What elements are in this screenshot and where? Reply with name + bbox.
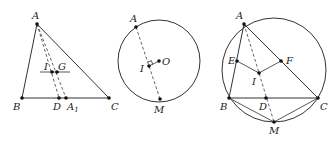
point-b bbox=[227, 96, 231, 100]
point-c bbox=[316, 96, 320, 100]
label-g: G bbox=[58, 61, 66, 72]
point-i bbox=[50, 70, 54, 74]
point-o bbox=[157, 59, 161, 63]
label-c: C bbox=[320, 101, 328, 112]
label-e: E bbox=[227, 55, 236, 66]
label-a: A bbox=[129, 13, 137, 24]
label-i: I bbox=[43, 61, 49, 72]
point-d bbox=[57, 96, 61, 100]
label-o: O bbox=[162, 56, 170, 67]
label-b: B bbox=[219, 101, 227, 112]
segments-ei-if bbox=[237, 61, 281, 73]
point-d bbox=[264, 96, 268, 100]
figure-3-inscribed-triangle: A B C E F I D M bbox=[219, 10, 328, 136]
label-m: M bbox=[268, 125, 280, 136]
label-c: C bbox=[111, 101, 119, 112]
point-c bbox=[107, 96, 111, 100]
circumcircle bbox=[222, 18, 326, 122]
point-i bbox=[257, 71, 261, 75]
label-d: D bbox=[258, 101, 267, 112]
label-a1: A1 bbox=[66, 101, 79, 114]
geometry-figures: A B C D A1 I G A M I O bbox=[0, 0, 335, 141]
point-e bbox=[235, 59, 239, 63]
label-a: A bbox=[31, 10, 39, 21]
segments-bm-mc bbox=[229, 98, 318, 122]
label-i: I bbox=[251, 76, 257, 87]
figures-canvas: A B C D A1 I G A M I O bbox=[0, 0, 335, 141]
point-a1 bbox=[64, 96, 68, 100]
figure-1-triangle-centroid-incenter: A B C D A1 I G bbox=[12, 10, 119, 114]
label-d: D bbox=[52, 101, 61, 112]
label-b: B bbox=[12, 101, 20, 112]
point-a bbox=[35, 22, 39, 26]
label-a1-main: A bbox=[66, 101, 74, 112]
point-m bbox=[272, 120, 276, 124]
point-a bbox=[242, 22, 246, 26]
label-m: M bbox=[153, 104, 165, 115]
label-a1-subscript: 1 bbox=[74, 106, 78, 114]
triangle-abc bbox=[229, 24, 318, 98]
point-b bbox=[20, 96, 24, 100]
label-a: A bbox=[235, 10, 243, 21]
point-f bbox=[279, 59, 283, 63]
point-m bbox=[158, 97, 162, 101]
label-i: I bbox=[139, 63, 145, 74]
point-a bbox=[134, 25, 138, 29]
figure-2-circle-perpendicular: A M I O bbox=[118, 13, 200, 115]
point-i bbox=[147, 64, 151, 68]
label-f: F bbox=[285, 55, 294, 66]
